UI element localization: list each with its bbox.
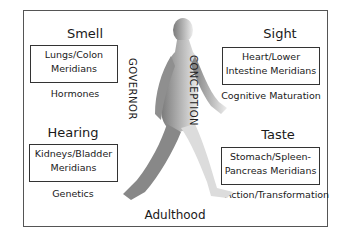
conception-label: CONCEPTION [188,55,199,126]
heart-lower-intestine-box: Heart/Lower Intestine Meridians [222,47,320,85]
box-line: Stomach/Spleen- [222,150,319,164]
stomach-spleen-pancreas-box: Stomach/Spleen- Pancreas Meridians [221,147,320,185]
box-line: Pancreas Meridians [222,164,319,178]
box-line: Meridians [31,62,117,76]
box-line: Heart/Lower [223,50,319,64]
box-line: Lungs/Colon [31,48,117,62]
lungs-colon-box: Lungs/Colon Meridians [30,45,118,83]
governor-label: GOVERNOR [127,58,138,120]
kidneys-bladder-box: Kidneys/Bladder Meridians [29,144,118,182]
sight-heading: Sight [225,26,335,41]
adulthood-caption: Adulthood [140,208,210,222]
box-line: Kidneys/Bladder [30,147,117,161]
taste-heading: Taste [223,127,333,142]
box-line: Intestine Meridians [223,64,319,78]
box-line: Meridians [30,161,117,175]
hearing-heading: Hearing [18,125,128,140]
